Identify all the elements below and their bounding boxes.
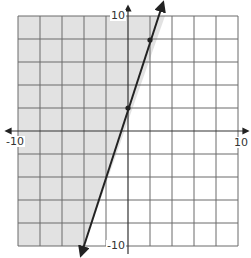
x-max-label: 10 (233, 137, 249, 148)
point-2-8 (147, 37, 152, 42)
point-0-2 (125, 105, 130, 110)
y-max-label: 10 (110, 10, 126, 21)
coordinate-plane-graph (0, 0, 251, 258)
y-min-label: -10 (106, 240, 126, 251)
x-min-label: -10 (5, 136, 25, 147)
